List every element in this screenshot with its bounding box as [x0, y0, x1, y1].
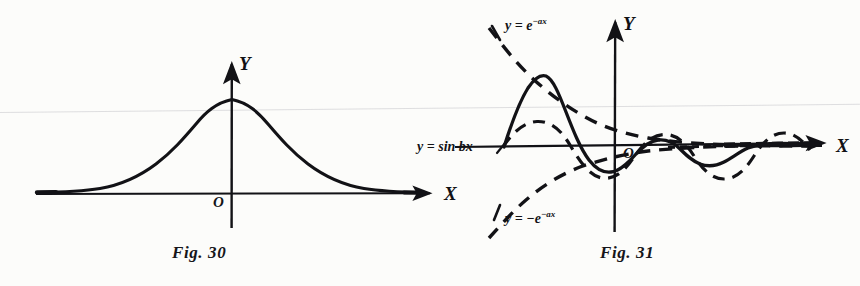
- fig30-x-axis: [36, 193, 430, 194]
- fig31-x-axis-label: X: [836, 135, 849, 157]
- fig31-sine-curve: [503, 121, 810, 179]
- fig30-caption: Fig. 30: [172, 243, 226, 263]
- fig31-exp-neg-label-leader: [494, 205, 500, 220]
- fig31-caption: Fig. 31: [600, 243, 654, 263]
- figure-page: Y X O Fig. 30 Y X O y = e−ax y = −e−ax y…: [0, 0, 860, 286]
- fig31-y-axis-label: Y: [623, 13, 635, 35]
- fig31-envelope-positive: [489, 28, 822, 146]
- fig31-damped-curve: [504, 76, 818, 173]
- fig31-origin-label: O: [623, 145, 634, 162]
- fig31-positive-envelope-label: y = e−ax: [505, 18, 547, 34]
- fig31-graph: [455, 22, 824, 238]
- fig30-graph: [36, 64, 430, 228]
- fig31-y-axis: [615, 22, 616, 232]
- fig30-origin-label: O: [213, 194, 224, 211]
- fig31-sine-curve-label: y = sin bx: [417, 139, 473, 155]
- fig30-y-axis-label: Y: [239, 53, 251, 75]
- fig30-x-axis-label: X: [444, 183, 457, 205]
- fig31-negative-envelope-label: y = −e−ax: [505, 211, 555, 227]
